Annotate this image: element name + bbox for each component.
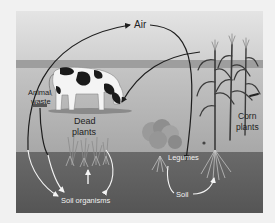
label-soil: Soil — [176, 190, 189, 199]
label-soil-organisms: Soil organisms — [61, 196, 110, 205]
label-legumes: Legumes — [168, 153, 199, 162]
label-dead-plants-line2: plants — [72, 127, 97, 137]
nitrogen-cycle-diagram: Air Animal waste Dead plants Corn plants… — [0, 0, 275, 223]
label-corn-plants-line1: Corn — [238, 111, 257, 121]
label-air: Air — [134, 19, 147, 30]
label-animal-waste-line1: Animal — [28, 88, 51, 97]
soil-layer — [16, 152, 263, 213]
label-corn-plants-line2: plants — [236, 122, 259, 132]
label-animal-waste-line2: waste — [30, 97, 51, 106]
label-dead-plants-line1: Dead — [74, 116, 96, 126]
